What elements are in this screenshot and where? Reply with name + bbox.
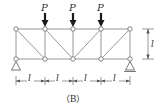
load-label: P — [68, 2, 76, 13]
node-icon — [99, 27, 103, 31]
arrow-right-icon — [97, 80, 101, 83]
arrow-down-icon — [146, 55, 149, 60]
diagonal-member — [45, 29, 73, 59]
arrow-left-icon — [45, 80, 49, 83]
truss-members — [16, 29, 130, 59]
node-icon — [43, 57, 47, 61]
truss-diagram: P P P l l — [0, 0, 165, 108]
arrow-left-icon — [16, 80, 20, 83]
diagonal-member — [16, 29, 45, 59]
node-icon — [14, 57, 18, 61]
span-label: l — [28, 73, 31, 83]
loads: P P P — [40, 2, 105, 27]
arrow-right-icon — [41, 80, 45, 83]
diagonal-member — [101, 29, 130, 59]
supports — [12, 62, 137, 72]
span-dimensions: l l l l — [16, 73, 130, 85]
load-label: P — [96, 2, 104, 13]
roller-support-icon — [126, 62, 135, 71]
span-label: l — [56, 73, 59, 83]
node-icon — [128, 27, 132, 31]
height-label: l — [151, 39, 154, 49]
arrow-up-icon — [146, 29, 149, 34]
arrow-down-icon — [70, 20, 77, 27]
node-icon — [71, 27, 75, 31]
height-dimension: l — [142, 29, 154, 59]
node-icon — [128, 57, 132, 61]
arrow-down-icon — [42, 20, 49, 27]
diagonal-member — [73, 29, 101, 59]
node-icon — [14, 27, 18, 31]
node-icon — [43, 27, 47, 31]
arrow-down-icon — [98, 20, 105, 27]
span-label: l — [84, 73, 87, 83]
figure-caption: （B） — [61, 94, 86, 104]
arrow-left-icon — [73, 80, 77, 83]
arrow-left-icon — [101, 80, 105, 83]
pin-support-icon — [12, 62, 21, 71]
load-label: P — [40, 2, 48, 13]
truss-figure: P P P l l — [0, 0, 165, 108]
node-icon — [71, 57, 75, 61]
span-label: l — [113, 73, 116, 83]
arrow-right-icon — [69, 80, 73, 83]
node-icon — [99, 57, 103, 61]
arrow-right-icon — [126, 80, 130, 83]
